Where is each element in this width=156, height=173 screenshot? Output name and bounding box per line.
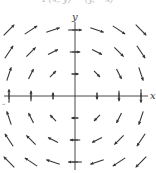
arrowhead-icon <box>29 91 32 94</box>
arrowhead-icon <box>117 98 120 101</box>
arrowhead-icon <box>68 160 71 163</box>
arrowhead-icon <box>139 100 142 103</box>
arrowhead-icon <box>70 138 73 141</box>
arrowhead-icon <box>71 116 74 119</box>
arrowhead-icon <box>79 28 82 31</box>
arrowhead-icon <box>77 50 80 53</box>
arrowhead-icon <box>95 97 98 100</box>
x-axis-label: x <box>150 90 156 101</box>
y-axis-label: y <box>71 11 78 22</box>
tick-label: – <box>2 100 6 108</box>
arrowhead-icon <box>76 72 79 75</box>
arrowhead-icon <box>7 89 10 92</box>
vector-field-plot: xy– <box>0 0 156 173</box>
arrowhead-icon <box>51 92 54 95</box>
